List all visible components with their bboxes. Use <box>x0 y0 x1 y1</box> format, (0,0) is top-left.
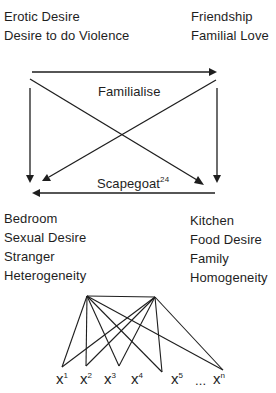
node-x1: x1 <box>56 369 68 388</box>
label-heterogeneity: Heterogeneity <box>4 266 86 285</box>
arrowhead-right-icon <box>209 68 217 76</box>
arrow-diagram <box>0 0 276 393</box>
node-x2: x2 <box>80 369 92 388</box>
bottom-right-group: Kitchen Food Desire Family Homogeneity <box>190 211 268 287</box>
label-homogeneity: Homogeneity <box>190 268 268 287</box>
label-bedroom: Bedroom <box>4 209 86 228</box>
node-x3: x3 <box>104 369 116 388</box>
arrowhead-diag-icon <box>42 174 51 181</box>
scapegoat-text: Scapegoat <box>97 176 160 191</box>
bottom-left-group: Bedroom Sexual Desire Stranger Heterogen… <box>4 209 86 285</box>
bipartite-graph <box>62 296 223 372</box>
arrowhead-diag-icon <box>194 176 204 185</box>
arrowhead-left-icon <box>32 189 40 197</box>
node-x4: x4 <box>131 369 143 388</box>
arrowhead-down-icon <box>213 175 221 183</box>
label-kitchen: Kitchen <box>190 211 268 230</box>
arrowhead-down-icon <box>26 175 34 183</box>
familialise-label: Familialise <box>98 82 161 101</box>
label-stranger: Stranger <box>4 247 86 266</box>
label-food-desire: Food Desire <box>190 230 268 249</box>
node-ellipsis: ... <box>195 371 206 390</box>
label-sexual-desire: Sexual Desire <box>4 228 86 247</box>
node-xn: xn <box>213 369 225 388</box>
footnote-24: 24 <box>160 175 169 184</box>
label-family: Family <box>190 249 268 268</box>
node-x5: x5 <box>171 369 183 388</box>
scapegoat-label: Scapegoat24 <box>97 174 169 193</box>
